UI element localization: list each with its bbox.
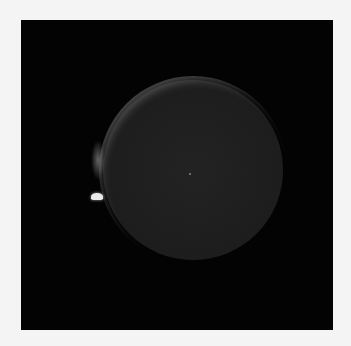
image-frame <box>21 20 333 330</box>
center-dot <box>189 173 191 175</box>
faint-structure <box>91 140 105 180</box>
disk-rim-highlight <box>99 76 287 264</box>
bright-speck <box>91 193 103 200</box>
